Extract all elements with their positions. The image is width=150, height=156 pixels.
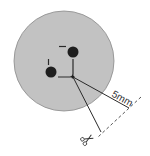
dot-lower-left xyxy=(46,67,57,78)
dot-upper-right xyxy=(68,47,79,58)
disc xyxy=(14,11,114,111)
scissors-icon xyxy=(80,133,95,146)
cutting-diagram: 5mm xyxy=(0,0,150,156)
measurement-label: 5mm xyxy=(110,88,135,108)
